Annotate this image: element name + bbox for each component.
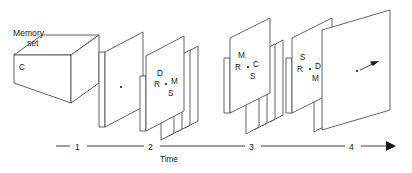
memory-set-caption-line2: set: [27, 38, 39, 48]
frame-3-display-frame-mrcs: M R C S: [224, 18, 283, 134]
time-axis-tick-1: 1: [75, 142, 80, 152]
frame-5-card-face: [322, 10, 390, 130]
frame-2-card-edge: [140, 76, 146, 131]
frame-2-display-frame-drms: D R M S: [140, 36, 198, 140]
frame-4-letter-top: S: [300, 53, 306, 62]
frame-3-letter-right: C: [253, 60, 259, 69]
frame-2-letter-left: R: [154, 80, 160, 89]
frame-3-card-edge: [224, 58, 230, 113]
frame-1-card-face: [105, 32, 143, 127]
frame-2-fixation-dot: [165, 83, 167, 85]
frame-5-fixation-dot: [356, 70, 358, 72]
memory-set-time-diagram: C Memory set D R M S: [0, 0, 412, 173]
frame-4-fixation-dot: [309, 68, 311, 70]
time-axis-label: Time: [160, 155, 178, 164]
time-axis-tick-4: 4: [349, 142, 354, 152]
frame-1-blank-fixation-frame: [99, 32, 143, 127]
time-axis-arrow-icon: [386, 141, 396, 151]
frame-4-letter-right: D: [315, 62, 321, 71]
frame-3-letter-top: M: [238, 51, 245, 60]
frame-3-letter-left: R: [235, 63, 241, 72]
frame-2-letter-bottom: S: [168, 89, 174, 98]
frame-2-letter-right: M: [171, 77, 178, 86]
frame-3-fixation-dot: [247, 66, 249, 68]
frame-1-fixation-dot: [120, 86, 122, 88]
frame-2-letter-top: D: [157, 69, 163, 78]
frame-5-response-frame: [322, 10, 390, 130]
memory-set-caption-line1: Memory: [13, 28, 45, 38]
time-axis: 1 2 3 4 Time: [56, 141, 396, 164]
frame-3-letter-bottom: S: [250, 72, 256, 81]
diagram-canvas: C Memory set D R M S: [0, 0, 412, 173]
frame-4-card-edge: [286, 58, 292, 113]
frame-4-letter-bottom: M: [312, 74, 319, 83]
time-axis-tick-3: 3: [249, 142, 254, 152]
memory-set-item-label: C: [19, 63, 25, 72]
frame-4-letter-left: R: [297, 65, 303, 74]
frame-1-card-edge: [99, 52, 105, 127]
time-axis-tick-2: 2: [148, 142, 153, 152]
